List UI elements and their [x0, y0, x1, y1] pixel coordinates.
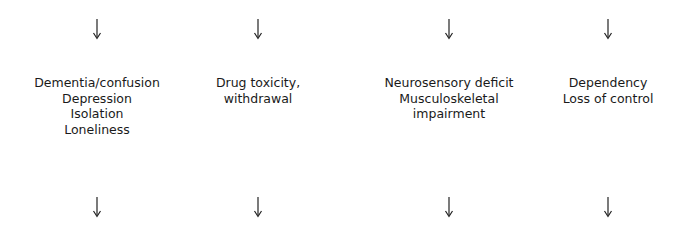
label-line: Musculoskeletal	[364, 91, 534, 107]
down-arrow-icon	[601, 18, 615, 40]
physical-factors-label: Neurosensory deficit Musculoskeletal imp…	[364, 75, 534, 122]
down-arrow-icon	[442, 196, 456, 218]
down-arrow-icon	[251, 196, 265, 218]
down-arrow-icon	[442, 18, 456, 40]
down-arrow-icon	[90, 196, 104, 218]
label-line: Dependency	[523, 75, 688, 91]
cognitive-factors-label: Dementia/confusion Depression Isolation …	[12, 75, 182, 137]
label-line: Isolation	[12, 106, 182, 122]
column-psychosocial: Dependency Loss of control	[523, 0, 688, 236]
column-physical: Neurosensory deficit Musculoskeletal imp…	[364, 0, 534, 236]
label-line: Loss of control	[523, 91, 688, 107]
drug-factors-label: Drug toxicity, withdrawal	[173, 75, 343, 106]
label-line: Dementia/confusion	[12, 75, 182, 91]
psychosocial-factors-label: Dependency Loss of control	[523, 75, 688, 106]
down-arrow-icon	[601, 196, 615, 218]
label-line: Depression	[12, 91, 182, 107]
column-drug: Drug toxicity, withdrawal	[173, 0, 343, 236]
down-arrow-icon	[90, 18, 104, 40]
down-arrow-icon	[251, 18, 265, 40]
label-line: withdrawal	[173, 91, 343, 107]
column-cognitive: Dementia/confusion Depression Isolation …	[12, 0, 182, 236]
label-line: Neurosensory deficit	[364, 75, 534, 91]
label-line: impairment	[364, 106, 534, 122]
label-line: Loneliness	[12, 122, 182, 138]
label-line: Drug toxicity,	[173, 75, 343, 91]
